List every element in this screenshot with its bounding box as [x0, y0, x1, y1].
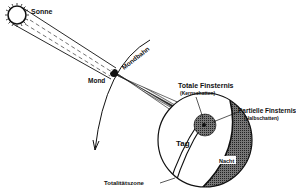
- light-rays: [13, 8, 116, 79]
- total-eclipse-label: Totale Finsternis: [178, 82, 234, 89]
- moon-label: Mond: [88, 77, 105, 84]
- night-label: Nacht: [219, 158, 234, 164]
- moon-orbit-label: Mondbahn: [120, 45, 150, 71]
- solar-eclipse-diagram: Sonne Mondbahn Mond Tag N: [0, 0, 296, 188]
- day-label: Tag: [176, 139, 190, 148]
- sun-label: Sonne: [31, 8, 52, 15]
- umbra-label: (Kernschatten): [180, 90, 216, 96]
- totality-zone-label: Totalitätszone: [104, 180, 145, 186]
- moon-icon: [110, 69, 118, 77]
- sun-icon: [5, 3, 29, 27]
- penumbra-label: (Halbschatten): [244, 115, 279, 121]
- partial-eclipse-label: Partielle Finsternis: [238, 107, 296, 114]
